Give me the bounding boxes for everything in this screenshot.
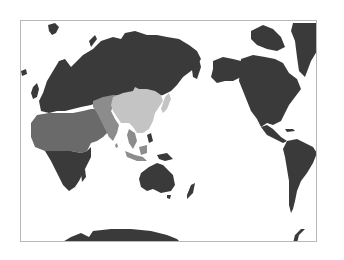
new-guinea (157, 153, 173, 161)
australia (139, 163, 175, 193)
caribbean-islands (285, 129, 295, 132)
central-america (261, 125, 287, 143)
british-isles (31, 83, 39, 99)
tasmania (167, 195, 171, 199)
philippines (147, 133, 153, 143)
novaya-zemlya (89, 35, 97, 47)
north-africa-middle-east (31, 109, 109, 153)
world-map (20, 20, 317, 242)
svalbard (48, 23, 59, 35)
greenland (291, 23, 317, 77)
southeast-asia (127, 129, 137, 149)
new-zealand (187, 183, 195, 199)
iceland (21, 69, 27, 76)
japan (161, 93, 171, 113)
borneo (139, 145, 147, 155)
sri-lanka (115, 143, 118, 148)
sub-saharan-africa (45, 147, 91, 191)
antarctica (61, 229, 181, 242)
alaska (211, 57, 241, 83)
canadian-arctic-islands (251, 25, 285, 51)
world-map-svg (20, 20, 317, 242)
north-america (239, 55, 301, 127)
antarctic-peninsula (293, 229, 305, 242)
south-america (283, 139, 317, 213)
